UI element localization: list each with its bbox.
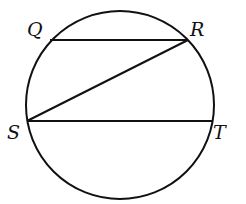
point-label-r: R	[189, 18, 204, 40]
point-label-q: Q	[27, 18, 43, 40]
point-label-t: T	[213, 121, 227, 143]
chord-rs	[27, 40, 188, 121]
geometry-diagram: Q R S T	[0, 0, 246, 204]
point-label-s: S	[7, 121, 20, 143]
